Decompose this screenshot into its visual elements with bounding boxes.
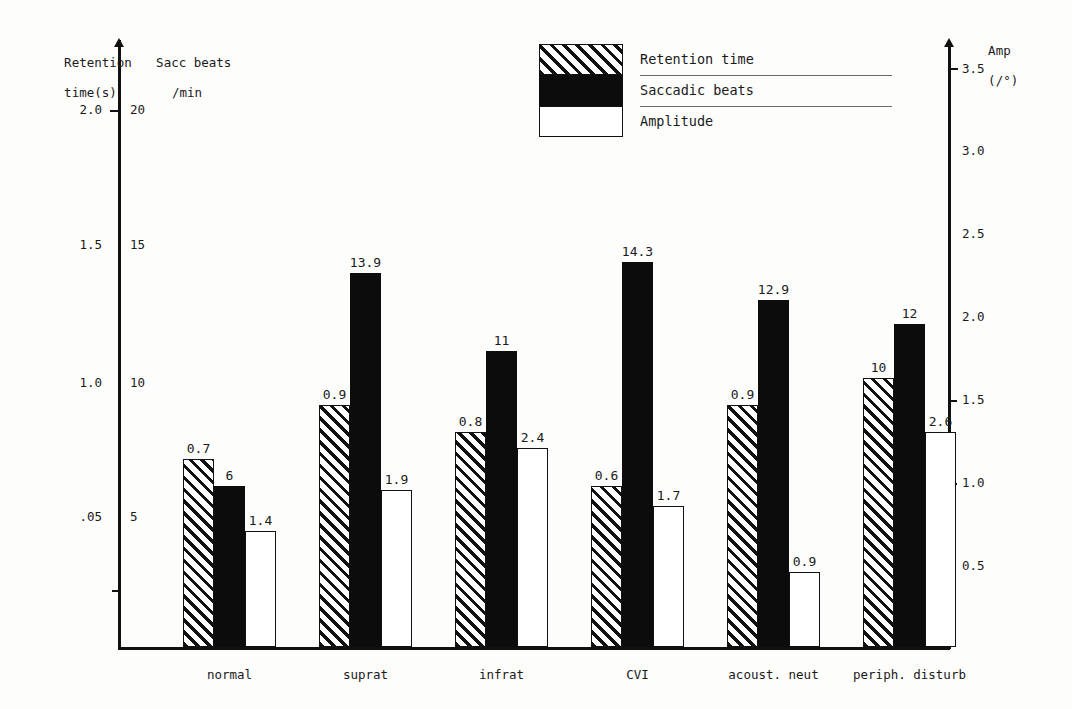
bar-value-label-saccadic-cvi: 14.3 (616, 245, 659, 259)
bar-amplitude-acoust-neut (789, 572, 820, 647)
bar-value-label-saccadic-acoust-neut: 12.9 (752, 283, 795, 297)
y-axis-right-title-line1: Amp (988, 43, 1011, 58)
y-axis-left-primary-tick-1: 1.5 (48, 238, 102, 252)
bar-value-label-amplitude-normal: 1.4 (239, 514, 282, 528)
y-axis-left-primary-tick-2: 1.0 (48, 376, 102, 390)
plot-area: 0.761.40.913.91.90.8112.40.614.31.70.912… (118, 46, 950, 647)
bar-retention-periph-disturb (863, 378, 894, 647)
y-axis-right-tick-mark-4 (950, 400, 957, 402)
bar-retention-infrat (455, 432, 486, 647)
y-axis-right-tick-4: 1.5 (962, 393, 985, 407)
bar-amplitude-suprat (381, 490, 412, 647)
y-axis-left-primary-tick-3: .05 (48, 510, 102, 524)
y-axis-right-title-line2: (/°) (988, 73, 1018, 88)
y-axis-right-tick-3: 2.0 (962, 310, 985, 324)
bar-value-label-retention-normal: 0.7 (177, 442, 220, 456)
bar-amplitude-infrat (517, 448, 548, 647)
y-axis-left-primary-title-line2: time(s) (64, 85, 117, 100)
y-axis-right-tick-0: 3.5 (962, 62, 985, 76)
bar-value-label-saccadic-infrat: 11 (480, 334, 523, 348)
bar-value-label-amplitude-periph-disturb: 2.6 (919, 415, 962, 429)
y-axis-right-tick-mark-0 (950, 68, 958, 70)
bar-amplitude-cvi (653, 506, 684, 647)
chart-canvas: Retention time(s) Sacc beats /min 2.0 1.… (0, 0, 1072, 709)
bar-value-label-saccadic-periph-disturb: 12 (888, 307, 931, 321)
bar-retention-normal (183, 459, 214, 647)
bar-value-label-amplitude-cvi: 1.7 (647, 489, 690, 503)
bar-value-label-amplitude-suprat: 1.9 (375, 473, 418, 487)
x-axis-line (118, 647, 950, 650)
bar-value-label-saccadic-suprat: 13.9 (344, 256, 387, 270)
bar-saccadic-infrat (486, 351, 517, 647)
bar-retention-cvi (591, 486, 622, 647)
bar-retention-suprat (319, 405, 350, 647)
bar-saccadic-normal (214, 486, 245, 647)
bar-value-label-amplitude-acoust-neut: 0.9 (783, 555, 826, 569)
bar-saccadic-cvi (622, 262, 653, 647)
bar-saccadic-acoust-neut (758, 300, 789, 647)
y-axis-right-tick-6: 0.5 (962, 559, 985, 573)
bar-saccadic-suprat (350, 273, 381, 647)
bar-value-label-saccadic-normal: 6 (208, 469, 251, 483)
bar-amplitude-normal (245, 531, 276, 647)
y-axis-left-primary-tick-0: 2.0 (48, 103, 102, 117)
y-axis-right-tick-2: 2.5 (962, 227, 985, 241)
x-axis-label-periph-disturb: periph. disturb (828, 667, 991, 682)
y-axis-right-tick-1: 3.0 (962, 144, 985, 158)
bar-amplitude-periph-disturb (925, 432, 956, 647)
bar-value-label-amplitude-infrat: 2.4 (511, 431, 554, 445)
bar-retention-acoust-neut (727, 405, 758, 647)
bar-saccadic-periph-disturb (894, 324, 925, 647)
y-axis-right-tick-5: 1.0 (962, 476, 985, 490)
